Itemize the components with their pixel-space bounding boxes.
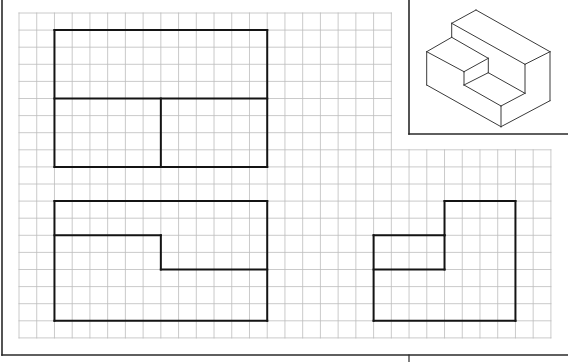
drawing-sheet <box>0 0 568 362</box>
drawing-canvas <box>0 0 568 362</box>
